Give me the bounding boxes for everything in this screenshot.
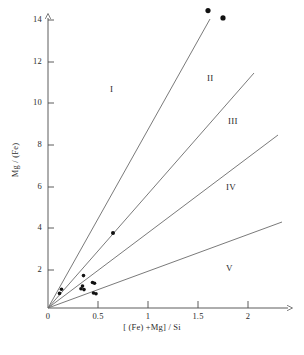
x-axis-title: [ (Fe) +Mg] / Si <box>0 322 304 332</box>
data-point <box>93 282 97 286</box>
y-tick-label-4: 4 <box>22 222 42 232</box>
plot-area <box>0 0 304 355</box>
x-tick-label-1: 1 <box>138 311 158 321</box>
data-point <box>94 292 98 296</box>
x-tick-label-2: 2 <box>238 311 258 321</box>
y-axis-title: Mg / (Fe) <box>10 115 20 205</box>
data-point <box>205 8 210 13</box>
x-axis-ticks <box>98 301 248 308</box>
x-tick-label-0: 0 <box>38 311 58 321</box>
region-boundary-lines <box>48 19 282 308</box>
data-point <box>60 287 64 291</box>
region-label-V: V <box>226 263 233 273</box>
data-point <box>82 288 86 292</box>
y-tick-label-14: 14 <box>22 14 42 24</box>
y-tick-label-8: 8 <box>22 139 42 149</box>
data-point <box>111 231 115 235</box>
region-label-I: I <box>110 84 113 94</box>
data-point <box>82 274 86 278</box>
x-tick-label-1.5: 1.5 <box>188 311 208 321</box>
region-label-IV: IV <box>226 182 236 192</box>
chart-figure: 2 4 6 8 10 12 14 0 0.5 1 1.5 2 I II III … <box>0 0 304 355</box>
boundary-line-IV-V <box>48 222 282 308</box>
y-tick-label-12: 12 <box>22 56 42 66</box>
data-point <box>220 15 225 20</box>
y-tick-label-2: 2 <box>22 264 42 274</box>
boundary-line-II-III <box>48 73 254 308</box>
region-label-II: II <box>207 73 214 83</box>
boundary-line-III-IV <box>48 135 278 308</box>
y-tick-label-10: 10 <box>22 97 42 107</box>
boundary-line-I-II <box>48 19 210 308</box>
data-point <box>58 292 62 296</box>
region-label-III: III <box>228 116 238 126</box>
y-axis-ticks <box>48 20 54 270</box>
y-tick-label-6: 6 <box>22 181 42 191</box>
x-tick-label-0.5: 0.5 <box>88 311 108 321</box>
